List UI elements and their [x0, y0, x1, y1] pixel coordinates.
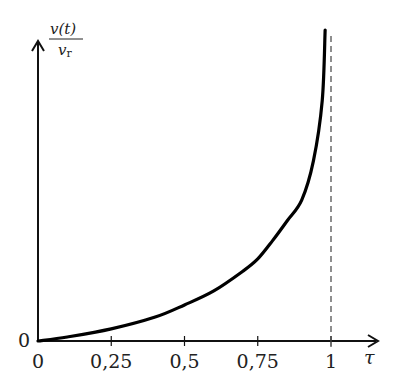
x-tick-labels: 00,250,50,751	[32, 350, 337, 372]
y-axis-label: v(t) vr	[49, 20, 83, 60]
y-origin-label: 0	[18, 329, 30, 351]
x-tick-label: 0,5	[169, 350, 199, 372]
x-tick-label: 1	[325, 350, 337, 372]
x-tick-label: 0	[32, 350, 44, 372]
chart: 0 τ v(t) vr 00,250,50,751	[0, 0, 405, 391]
x-tick-label: 0,75	[237, 350, 279, 372]
y-axis-label-numerator: v(t)	[50, 20, 76, 38]
x-tick-label: 0,25	[90, 350, 132, 372]
velocity-curve	[38, 30, 325, 341]
x-axis-label: τ	[364, 346, 375, 368]
y-axis-label-denominator: vr	[58, 41, 72, 60]
